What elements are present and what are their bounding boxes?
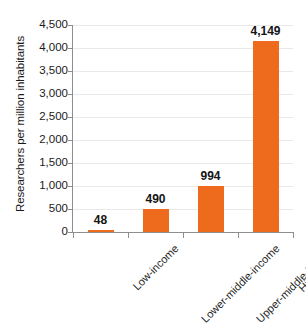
x-tick-mark: [73, 232, 74, 238]
x-tick-mark: [128, 232, 129, 238]
y-axis-line: [72, 25, 73, 233]
y-tick-mark: [68, 140, 73, 141]
y-tick-label: 4,500: [18, 18, 68, 30]
bar-value-label: 994: [200, 169, 220, 183]
y-tick-mark: [68, 48, 73, 49]
x-tick-mark: [183, 232, 184, 238]
y-tick-mark: [68, 25, 73, 26]
y-tick-mark: [68, 71, 73, 72]
x-tick-mark: [238, 232, 239, 238]
y-tick-label: 4,000: [18, 41, 68, 53]
y-tick-mark: [68, 186, 73, 187]
bar: [143, 209, 169, 232]
y-tick-label: 0: [18, 225, 68, 237]
y-tick-mark: [68, 209, 73, 210]
bar-chart-figure: Researchers per million inhabitants 0500…: [0, 0, 306, 336]
y-tick-label: 1,000: [18, 179, 68, 191]
y-tick-label: 2,500: [18, 110, 68, 122]
y-tick-label: 3,500: [18, 64, 68, 76]
y-tick-mark: [68, 117, 73, 118]
x-category-label: Low-income: [130, 242, 180, 292]
y-tick-label: 3,000: [18, 87, 68, 99]
bar-value-label: 4,149: [250, 24, 280, 38]
y-tick-label: 1,500: [18, 156, 68, 168]
bar: [198, 186, 224, 232]
plot-area: [73, 25, 293, 232]
y-tick-mark: [68, 163, 73, 164]
y-tick-label: 500: [18, 202, 68, 214]
y-tick-label: 2,000: [18, 133, 68, 145]
chart-title: [0, 0, 306, 2]
y-tick-mark: [68, 94, 73, 95]
bar-value-label: 490: [145, 192, 165, 206]
x-tick-mark: [293, 232, 294, 238]
bar: [253, 41, 279, 232]
bar-value-label: 48: [94, 213, 107, 227]
